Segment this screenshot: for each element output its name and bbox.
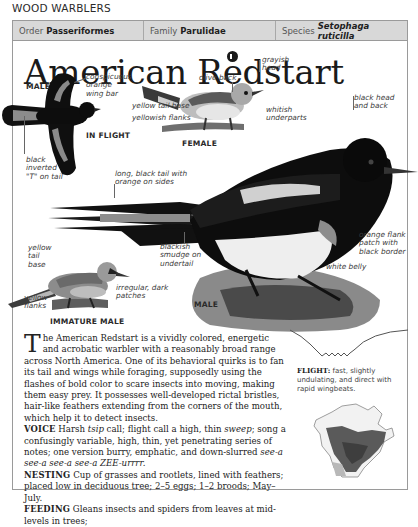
intro-paragraph: The American Redstart is a vividly color… bbox=[24, 333, 286, 424]
leader-line bbox=[114, 184, 115, 198]
label-yellow-tail-base: yellow tail base bbox=[132, 102, 189, 110]
leader-line bbox=[184, 232, 185, 244]
label-yellow-flanks-imm: yellow flanks bbox=[24, 294, 48, 311]
species-value: Setophaga ruticilla bbox=[318, 21, 407, 41]
label-yellow-tail-base-imm: yellow tail base bbox=[28, 244, 52, 269]
order-label: Order bbox=[19, 26, 43, 36]
label-long-tail: long, black tail with orange on sides bbox=[115, 170, 187, 187]
audio-play-icon[interactable] bbox=[227, 51, 238, 62]
voice-label: VOICE bbox=[24, 424, 56, 434]
label-grayish-head: grayish head bbox=[262, 56, 289, 73]
intro-text: he American Redstart is a vividly colore… bbox=[24, 333, 284, 423]
immature-male-caption: IMMATURE MALE bbox=[50, 317, 124, 326]
voice-text: call; flight call a high, thin bbox=[104, 424, 224, 434]
label-irregular-patches: irregular, dark patches bbox=[116, 284, 168, 301]
flight-caption: FLIGHT: fast, slightly undulating, and d… bbox=[297, 366, 405, 394]
feeding-paragraph: FEEDING Gleans insects and spiders from … bbox=[24, 504, 286, 527]
voice-flight-italic: sweep bbox=[224, 424, 251, 434]
nesting-label: NESTING bbox=[24, 470, 70, 480]
label-white-belly: white belly bbox=[326, 263, 366, 271]
family-value: Parulidae bbox=[180, 26, 225, 36]
flight-label: FLIGHT: bbox=[297, 366, 330, 375]
section-title: WOOD WARBLERS bbox=[12, 2, 111, 14]
taxonomy-family: Family Parulidae bbox=[143, 21, 275, 40]
label-undertail-smudge: blackish smudge on undertail bbox=[160, 243, 201, 268]
label-wing-bar: conspicuous orange wing bar bbox=[86, 73, 132, 98]
male-caption: MALE bbox=[26, 82, 50, 91]
taxonomy-order: Order Passeriformes bbox=[13, 21, 143, 40]
leader-line bbox=[259, 60, 260, 72]
leader-line bbox=[353, 96, 354, 110]
voice-paragraph: VOICE Harsh tsip call; flight call a hig… bbox=[24, 424, 286, 470]
leader-line bbox=[24, 116, 25, 154]
nesting-paragraph: NESTING Cup of grasses and rootlets, lin… bbox=[24, 470, 286, 504]
male-main-caption: MALE bbox=[194, 300, 218, 309]
voice-text: Harsh bbox=[56, 424, 88, 434]
flight-pattern-diagram bbox=[290, 326, 410, 364]
feeding-label: FEEDING bbox=[24, 504, 70, 514]
order-value: Passeriformes bbox=[46, 26, 114, 36]
species-description: The American Redstart is a vividly color… bbox=[24, 333, 286, 527]
family-label: Family bbox=[150, 26, 177, 36]
species-label: Species bbox=[282, 26, 315, 36]
drop-cap: T bbox=[24, 334, 41, 354]
leader-line bbox=[232, 82, 233, 92]
label-whitish-underparts: whitish underparts bbox=[266, 106, 307, 123]
voice-call-italic: tsip bbox=[88, 424, 104, 434]
range-map bbox=[312, 402, 398, 477]
label-orange-flank: orange flank patch with black border bbox=[359, 231, 406, 256]
label-olive-back: olive back bbox=[199, 74, 236, 82]
label-black-head: black head and back bbox=[354, 94, 394, 111]
label-yellowish-flanks: yellowish flanks bbox=[132, 114, 191, 122]
taxonomy-species: Species Setophaga ruticilla bbox=[275, 21, 407, 40]
taxonomy-bar: Order Passeriformes Family Parulidae Spe… bbox=[13, 21, 407, 41]
